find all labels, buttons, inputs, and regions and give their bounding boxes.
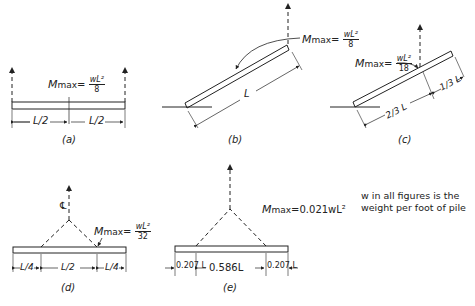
pile-beam: [185, 45, 289, 108]
dim-label: L/4: [20, 262, 34, 272]
dim-label: L/2: [89, 115, 104, 126]
centerline-symbol: ℄: [60, 200, 66, 211]
dim-label: 0.207 L: [176, 262, 196, 270]
moment-label-a: Mmax= wL²8: [48, 75, 105, 94]
pile-beam: [175, 246, 288, 252]
moment-label-c: Mmax= wL²18: [355, 54, 412, 73]
dim-label: 0.207 L: [267, 262, 287, 270]
figure-e: [165, 167, 298, 276]
fraction: wL²8: [343, 30, 359, 49]
dim-label: 0.586L: [209, 262, 243, 273]
moment-label-b: Mmax= wL²8: [302, 30, 359, 49]
footnote: w in all figures is the weight per foot …: [361, 190, 466, 214]
pile-beam: [12, 102, 125, 109]
dim-label: L/2: [33, 115, 48, 126]
dim-label: L/4: [105, 262, 119, 272]
fraction: wL²8: [89, 75, 105, 94]
caption-c: (c): [398, 134, 411, 145]
dim-label: L/2: [61, 262, 75, 272]
caption-b: (b): [228, 134, 242, 145]
pile-beam: [13, 247, 126, 253]
moment-label-e: Mmax=0.021wL²: [262, 203, 346, 216]
pile-lifting-diagram: [0, 0, 475, 306]
figure-b: [162, 6, 302, 128]
fraction: wL²32: [135, 222, 151, 241]
caption-d: (d): [61, 282, 75, 293]
length-label: L: [244, 88, 250, 99]
fraction: wL²18: [396, 54, 412, 73]
caption-e: (e): [223, 282, 237, 293]
moment-label-d: Mmax= wL²32: [94, 222, 151, 241]
caption-a: (a): [62, 134, 76, 145]
